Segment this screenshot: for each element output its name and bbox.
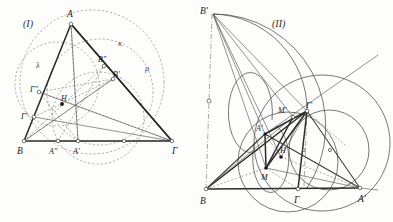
label-gamma: Γ (171, 146, 178, 156)
line-gammadprime-bprime (39, 79, 113, 92)
label-b-dprime: B'' (98, 55, 107, 64)
label-g-dprime: Γ'' (29, 85, 38, 94)
label-a-prime: A' (72, 147, 80, 156)
figure-one-group: (I) A B Γ H A' A'' B' B'' Γ' Γ'' κ λ μ (15, 9, 178, 164)
line-gprime-aprimebr (307, 111, 360, 188)
point-mid-marker (303, 149, 306, 152)
figure-one-caption: (I) (23, 18, 34, 30)
label-gamma-two: Γ (293, 195, 300, 205)
point-b-vertex (22, 139, 26, 143)
cevian-gamma-gammaprime (34, 117, 172, 141)
triangle-abg (24, 24, 172, 141)
point-gamma-two (296, 187, 300, 191)
label-b-prime: B' (113, 70, 120, 79)
point-a-dprime (56, 139, 60, 143)
label-b-two: B (200, 196, 206, 206)
point-b-two (204, 187, 208, 191)
point-gamma-vertex (170, 139, 174, 143)
point-g-prime (32, 115, 36, 119)
figure-two-caption: (II) (272, 18, 286, 30)
label-a-dprime: A'' (48, 147, 58, 156)
circle-nine-point (52, 72, 144, 164)
point-m-two (264, 166, 268, 170)
label-bprime-two: B' (200, 6, 209, 16)
line-bprime-m (213, 14, 266, 168)
point-b-dprime (102, 64, 106, 68)
line-bprime-gprime (213, 14, 307, 111)
circle-kappa (20, 10, 164, 154)
label-aprime-br: A' (357, 194, 367, 204)
label-lambda: λ (35, 60, 40, 70)
label-g-prime: Γ' (20, 112, 28, 121)
line-b-bdprime (24, 66, 104, 141)
figure-canvas: (I) A B Γ H A' A'' B' B'' Γ' Γ'' κ λ μ (0, 0, 393, 222)
label-mprime-two: M' (277, 106, 287, 115)
point-right-center (328, 148, 331, 151)
label-b: B (17, 146, 23, 156)
label-kappa: κ (118, 38, 123, 48)
label-m-two: M (260, 173, 269, 182)
point-h-two (279, 155, 283, 159)
baseline-extension (360, 188, 378, 190)
baseline-b-to-aprime (206, 188, 360, 189)
point-mprime-two (291, 115, 294, 118)
point-aprime-two (263, 132, 266, 135)
point-aprime-br (358, 186, 362, 190)
label-h-two: H (279, 146, 287, 155)
label-aprime-two: A' (255, 124, 263, 133)
point-midpoint-bprime-b (207, 99, 211, 103)
point-a-prime (76, 139, 80, 143)
ray-upper-right (265, 55, 378, 134)
line-aprime-to-aprimebr (265, 134, 360, 188)
line-m-aprimebr (266, 168, 360, 188)
figure-two-group: (II) B' B Γ A' Γ' M' A' H M (200, 6, 390, 212)
line-bprime-mprime (213, 14, 293, 117)
point-base-extra (122, 139, 125, 142)
dash-b-m (206, 168, 266, 189)
point-a-vertex (69, 22, 73, 26)
geometry-figure-pair: (I) A B Γ H A' A'' B' B'' Γ' Γ'' κ λ μ (0, 0, 393, 222)
label-mu: μ (144, 63, 149, 73)
label-a: A (66, 9, 73, 19)
dash-h-aprimebr (281, 157, 360, 188)
circle-lambda (15, 42, 99, 126)
label-h: H (60, 94, 68, 103)
line-adprime-bdprime (58, 66, 104, 141)
label-gprime-two: Γ' (305, 101, 313, 110)
